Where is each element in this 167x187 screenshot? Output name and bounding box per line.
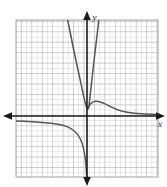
coordinate-plane-svg: y x bbox=[0, 0, 167, 187]
x-axis-label: x bbox=[157, 119, 162, 129]
graph-figure: y x bbox=[0, 0, 167, 187]
y-axis-top-arrow-icon bbox=[83, 11, 91, 20]
x-axis-left-arrow-icon bbox=[3, 112, 12, 120]
y-axis-bottom-arrow-icon bbox=[83, 177, 91, 186]
y-axis-label: y bbox=[92, 12, 97, 22]
